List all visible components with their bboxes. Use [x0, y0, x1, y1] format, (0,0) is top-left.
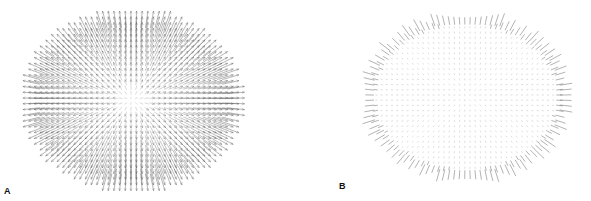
figure-container: A B — [0, 0, 591, 201]
vector-field-canvas — [0, 0, 591, 201]
vector-field-b — [363, 14, 572, 182]
panel-label-a: A — [4, 187, 11, 196]
vector-field-a — [23, 11, 244, 190]
panel-label-b: B — [339, 182, 346, 191]
